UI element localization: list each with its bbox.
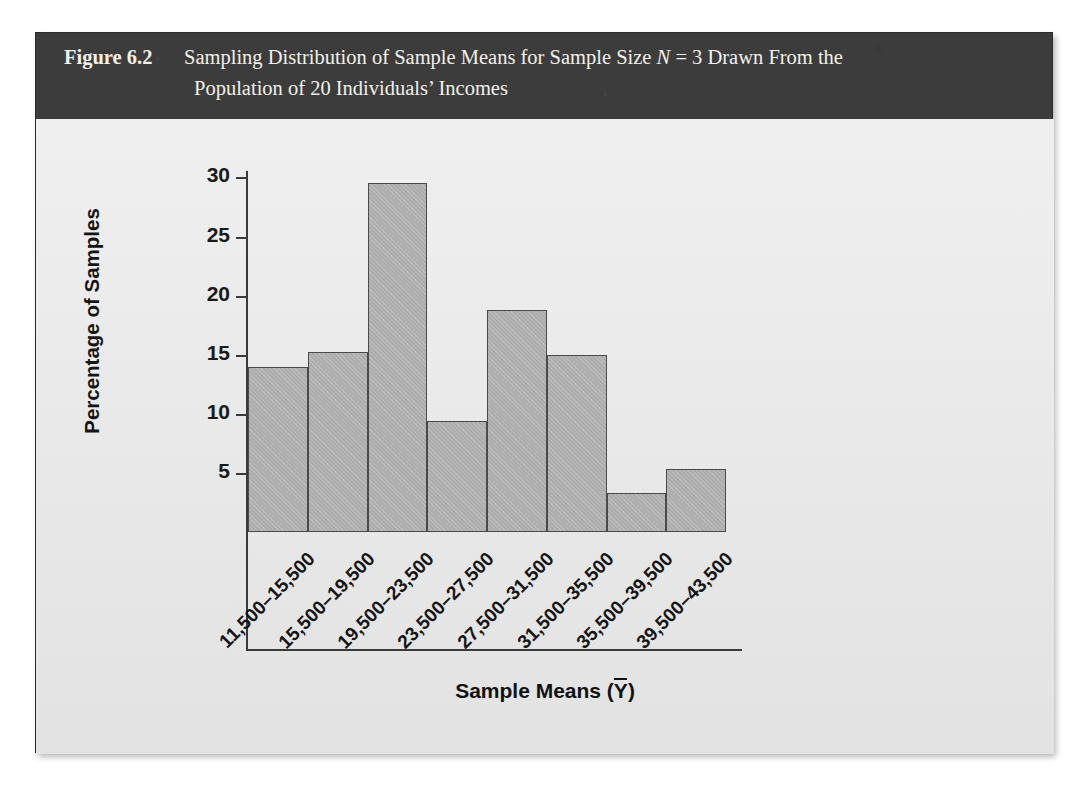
figure-container: Figure 6.2Sampling Distribution of Sampl…	[35, 32, 1053, 753]
y-tick-mark	[236, 414, 246, 416]
y-tick-mark	[236, 473, 246, 475]
caption-text-post: = 3 Drawn From the	[670, 46, 843, 68]
y-tick-label: 25	[186, 223, 230, 247]
y-tick-label: 30	[186, 163, 230, 187]
y-tick-label: 15	[186, 341, 230, 365]
y-tick-mark	[236, 296, 246, 298]
plot-area	[248, 153, 726, 532]
y-tick-mark	[236, 237, 246, 239]
caption-line-1: Figure 6.2Sampling Distribution of Sampl…	[64, 42, 1012, 73]
chart-panel: Percentage of Samples 51015202530 11,500…	[36, 119, 1054, 754]
caption-text-pre: Sampling Distribution of Sample Means fo…	[184, 46, 657, 68]
y-tick-label: 20	[186, 282, 230, 306]
caption-line-2: Population of 20 Individuals’ Incomes	[64, 73, 1012, 104]
bar	[666, 469, 726, 532]
y-tick-label: 10	[186, 400, 230, 424]
x-axis-title: Sample Means (Y)	[36, 679, 1054, 703]
y-tick-mark	[236, 355, 246, 357]
bar	[547, 355, 607, 532]
bar	[487, 310, 547, 532]
figure-caption-band: Figure 6.2Sampling Distribution of Sampl…	[36, 33, 1052, 119]
bar	[248, 367, 308, 532]
bar	[427, 421, 487, 532]
bar	[368, 183, 428, 532]
y-tick-mark	[236, 177, 246, 179]
bar	[607, 493, 667, 532]
figure-number-label: Figure 6.2	[64, 42, 184, 73]
y-axis-title: Percentage of Samples	[80, 171, 104, 471]
caption-italic-n: N	[657, 46, 671, 68]
bar	[308, 352, 368, 532]
y-bar-symbol: Y	[614, 679, 628, 703]
y-tick-label: 5	[186, 459, 230, 483]
x-axis-line	[246, 649, 742, 651]
x-axis-title-text: Sample Means (Y)	[455, 679, 635, 702]
